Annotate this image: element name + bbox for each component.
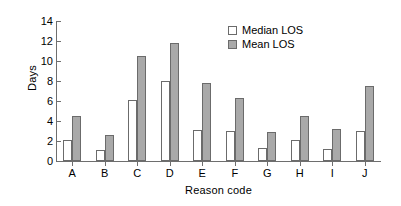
bar-H-median: [291, 140, 300, 161]
x-axis-tick: [202, 162, 203, 166]
x-axis-tick-label: D: [158, 168, 182, 179]
bar-F-median: [226, 131, 235, 162]
legend: Median LOS Mean LOS: [228, 24, 303, 52]
bar-D-mean: [170, 43, 179, 161]
y-axis-tick-label: 10: [30, 56, 53, 67]
x-axis-tick: [332, 162, 333, 166]
x-axis-tick-label: E: [190, 168, 214, 179]
x-axis-tick-label: G: [255, 168, 279, 179]
bar-G-mean: [267, 132, 276, 161]
legend-swatch-median-icon: [228, 26, 237, 35]
x-axis-tick: [72, 162, 73, 166]
y-axis-tick-label: 0: [30, 156, 53, 167]
y-axis-tick-label: 12: [30, 36, 53, 47]
x-axis-tick: [105, 162, 106, 166]
legend-swatch-mean-icon: [228, 40, 237, 49]
y-axis-tick-label: 14: [30, 16, 53, 27]
x-axis-tick-label: C: [125, 168, 149, 179]
bar-A-mean: [72, 116, 81, 161]
x-axis-tick: [365, 162, 366, 166]
bar-H-mean: [300, 116, 309, 161]
bar-B-median: [96, 150, 105, 161]
bar-J-median: [356, 131, 365, 162]
x-axis-tick-label: F: [223, 168, 247, 179]
bar-D-median: [161, 81, 170, 161]
y-axis-tick-label: 6: [30, 96, 53, 107]
bar-G-median: [258, 148, 267, 161]
bar-C-median: [128, 100, 137, 161]
legend-item-mean: Mean LOS: [228, 38, 303, 51]
legend-label-median: Median LOS: [242, 25, 303, 36]
x-axis-tick-label: I: [320, 168, 344, 179]
plot-area: [56, 21, 381, 161]
bar-B-mean: [105, 135, 114, 161]
x-axis-tick-label: H: [288, 168, 312, 179]
x-axis-tick: [170, 162, 171, 166]
legend-label-mean: Mean LOS: [242, 39, 295, 50]
x-axis-tick: [235, 162, 236, 166]
y-axis-tick-label: 8: [30, 76, 53, 87]
bar-I-median: [323, 149, 332, 161]
x-axis-tick: [300, 162, 301, 166]
bar-chart: Days 02468101214 ABCDEFGHIJ Reason code …: [0, 0, 401, 206]
y-axis-tick-label: 2: [30, 136, 53, 147]
x-axis-tick: [267, 162, 268, 166]
bar-I-mean: [332, 129, 341, 161]
legend-item-median: Median LOS: [228, 24, 303, 37]
bar-E-mean: [202, 83, 211, 161]
x-axis-tick-label: J: [353, 168, 377, 179]
bar-J-mean: [365, 86, 374, 161]
bar-C-mean: [137, 56, 146, 161]
bar-F-mean: [235, 98, 244, 161]
x-axis-tick-label: B: [93, 168, 117, 179]
x-axis-tick-label: A: [60, 168, 84, 179]
bar-E-median: [193, 130, 202, 161]
bar-A-median: [63, 140, 72, 161]
y-axis-tick-label: 4: [30, 116, 53, 127]
x-axis-title: Reason code: [56, 184, 381, 196]
x-axis-tick: [137, 162, 138, 166]
